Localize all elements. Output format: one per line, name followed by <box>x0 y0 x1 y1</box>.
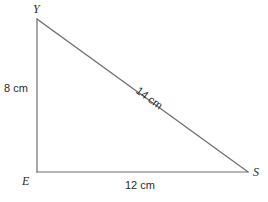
vertex-label-y: Y <box>33 3 40 15</box>
vertex-label-e: E <box>22 175 29 187</box>
triangle-shape <box>0 0 268 202</box>
vertex-label-s: S <box>253 166 259 178</box>
side-length-label-ye: 8 cm <box>4 83 28 94</box>
side-length-label-es: 12 cm <box>125 180 155 191</box>
triangle-diagram: Y E S 8 cm 12 cm 14 cm <box>0 0 268 202</box>
